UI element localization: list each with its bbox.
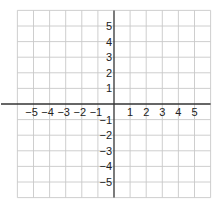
y-tick-label: 5 <box>106 20 112 32</box>
y-tick-label: −2 <box>99 129 112 141</box>
x-tick-label: −5 <box>25 106 38 118</box>
y-tick-label: 4 <box>106 36 112 48</box>
y-tick-label: −3 <box>99 145 112 157</box>
x-tick-label: −3 <box>57 106 70 118</box>
y-tick-label: 2 <box>106 67 112 79</box>
x-tick-label: 4 <box>175 106 181 118</box>
y-tick-label: 3 <box>106 51 112 63</box>
x-tick-label: −4 <box>41 106 54 118</box>
coordinate-plane: −5−4−3−2−112345 54321−1−2−3−4−5 <box>0 0 215 206</box>
y-tick-label: −4 <box>99 160 112 172</box>
x-tick-label: 1 <box>127 106 133 118</box>
x-tick-label: 3 <box>159 106 165 118</box>
y-tick-label: −5 <box>99 176 112 188</box>
x-tick-label: 5 <box>191 106 197 118</box>
y-tick-label: −1 <box>99 114 112 126</box>
x-tick-label: −2 <box>74 106 87 118</box>
y-tick-label: 1 <box>106 82 112 94</box>
x-tick-label: 2 <box>143 106 149 118</box>
